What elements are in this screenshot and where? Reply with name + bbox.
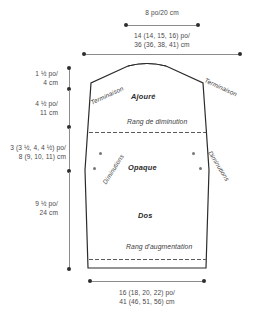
bottom-width-measure-line <box>90 281 204 282</box>
bottom-width-cap-left <box>88 279 92 283</box>
section-label-back: Dos <box>138 211 153 220</box>
bottom-width-cap-right <box>202 279 206 283</box>
section-label-lace: Ajouré <box>131 92 156 101</box>
increase-row-dotted-line <box>88 258 206 261</box>
knitting-schematic-diagram: 8 po/20 cm 14 (14, 15, 16) po/ 36 (36, 3… <box>0 0 262 313</box>
garment-outline-path <box>0 0 262 313</box>
section-label-solid: Opaque <box>128 163 157 172</box>
decrease-row-label: Rang de diminution <box>127 118 187 125</box>
bottom-width-label-metric: 41 (46, 51, 56) cm <box>97 297 197 306</box>
decrease-row-dotted-line <box>88 131 206 134</box>
bottom-width-label-imperial: 16 (18, 20, 22) po/ <box>97 288 197 297</box>
increase-row-label: Rang d'augmentation <box>126 243 192 250</box>
